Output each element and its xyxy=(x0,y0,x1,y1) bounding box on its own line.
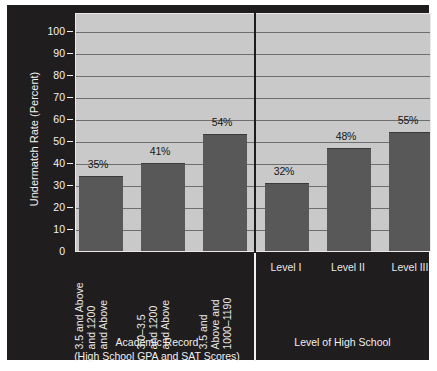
chart-panel: Undermatch Rate (Percent) 100 90 80 70 6… xyxy=(6,4,430,361)
y-tick-mark xyxy=(67,141,73,142)
gridline xyxy=(76,164,430,165)
gridline xyxy=(76,54,430,55)
bar[interactable] xyxy=(327,148,371,252)
gridline xyxy=(76,32,430,33)
chart-figure: Undermatch Rate (Percent) 100 90 80 70 6… xyxy=(0,0,437,371)
y-tick-label: 80 xyxy=(25,69,65,81)
category-label: Level III xyxy=(380,261,437,273)
gridline xyxy=(76,98,430,99)
gridline xyxy=(76,142,430,143)
y-tick-label: 100 xyxy=(25,25,65,37)
group-title-line2: (High School GPA and SAT Scores) xyxy=(47,349,267,363)
bar[interactable] xyxy=(265,183,309,252)
bar-value-label: 35% xyxy=(70,158,126,170)
group-title-line1: Academic Record xyxy=(67,335,247,349)
y-tick-mark xyxy=(67,207,73,208)
bar-value-label: 54% xyxy=(194,116,250,128)
y-tick-mark xyxy=(67,185,73,186)
bar[interactable] xyxy=(203,134,247,252)
y-tick-mark xyxy=(67,31,73,32)
group-title-right: Level of High School xyxy=(255,335,430,349)
y-tick-mark xyxy=(67,75,73,76)
y-tick-label: 0 xyxy=(25,245,65,257)
plot-area xyxy=(75,13,431,252)
y-tick-label: 30 xyxy=(25,179,65,191)
y-tick-mark xyxy=(67,229,73,230)
bar-value-label: 48% xyxy=(318,130,374,142)
y-tick-label: 50 xyxy=(25,135,65,147)
gridline xyxy=(76,120,430,121)
bar[interactable] xyxy=(79,176,123,252)
gridline xyxy=(76,76,430,77)
bar-value-label: 41% xyxy=(132,145,188,157)
y-tick-label: 70 xyxy=(25,91,65,103)
bar[interactable] xyxy=(389,132,431,252)
gridline xyxy=(76,186,430,187)
group-divider xyxy=(254,13,256,252)
y-tick-mark xyxy=(67,97,73,98)
y-tick-label: 60 xyxy=(25,113,65,125)
y-tick-label: 90 xyxy=(25,47,65,59)
bar-value-label: 55% xyxy=(380,114,436,126)
y-tick-mark xyxy=(67,53,73,54)
category-label: Level I xyxy=(256,261,316,273)
y-tick-mark xyxy=(67,119,73,120)
category-label: Level II xyxy=(318,261,378,273)
bar-value-label: 32% xyxy=(256,165,312,177)
gridline xyxy=(76,230,430,231)
bar[interactable] xyxy=(141,163,185,252)
gridline xyxy=(76,208,430,209)
y-tick-label: 40 xyxy=(25,157,65,169)
y-tick-label: 10 xyxy=(25,223,65,235)
y-axis-ticks: 100 90 80 70 60 50 40 30 20 10 0 xyxy=(25,5,65,371)
y-tick-label: 20 xyxy=(25,201,65,213)
